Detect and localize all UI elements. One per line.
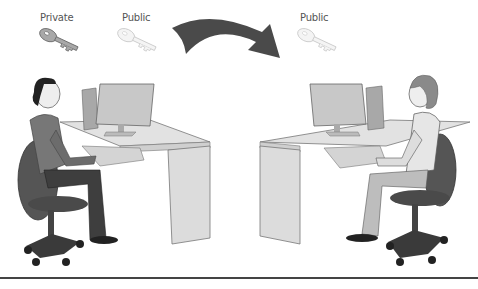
private-key-icon	[38, 26, 86, 56]
public-key-icon-right	[296, 26, 344, 56]
public-key-icon-left	[116, 26, 164, 56]
private-key-label: Private	[40, 12, 73, 23]
transfer-arrow-icon	[170, 10, 286, 60]
left-person-at-desk	[0, 70, 220, 270]
right-person-at-desk	[250, 70, 478, 270]
public-key-label-left: Public	[122, 12, 150, 23]
caption-divider	[0, 277, 478, 279]
public-key-label-right: Public	[300, 12, 328, 23]
